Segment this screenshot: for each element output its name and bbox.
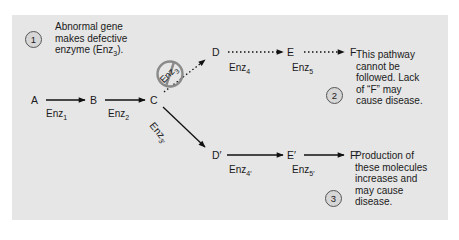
note-1-line: Abnormal gene xyxy=(55,21,127,33)
note-2-line: cause disease. xyxy=(356,95,423,107)
node-d-prime: D′ xyxy=(212,149,222,161)
step-number-2: 2 xyxy=(326,87,343,104)
enzyme-2-label: Enz2 xyxy=(108,108,129,120)
enzyme-5-prime-label: Enz5′ xyxy=(292,164,314,176)
node-d: D xyxy=(212,46,220,58)
note-3-line: these molecules xyxy=(355,162,427,174)
note-2: This pathway cannot be followed. Lack of… xyxy=(356,49,423,107)
note-2-line: This pathway xyxy=(356,49,423,61)
note-3-line: disease. xyxy=(355,196,427,208)
note-3: Production of these molecules increases … xyxy=(355,150,427,208)
node-e-prime: E′ xyxy=(287,149,296,161)
enzyme-4-label: Enz4 xyxy=(229,62,250,74)
note-2-line: of “F” may xyxy=(356,84,423,96)
node-c: C xyxy=(150,94,158,106)
enzyme-4-prime-label: Enz4′ xyxy=(229,164,251,176)
note-1: Abnormal gene makes defective enzyme (En… xyxy=(55,21,127,56)
note-2-line: cannot be xyxy=(356,61,423,73)
step-number-1: 1 xyxy=(25,31,42,48)
step-number-3: 3 xyxy=(325,190,342,207)
arrow-c-to-dprime xyxy=(163,107,205,147)
note-1-line: enzyme (Enz3). xyxy=(55,44,127,56)
enzyme-1-label: Enz1 xyxy=(46,108,67,120)
note-3-line: may cause xyxy=(355,185,427,197)
note-2-line: followed. Lack xyxy=(356,72,423,84)
node-b: B xyxy=(90,94,97,106)
note-1-line: makes defective xyxy=(55,33,127,45)
note-3-line: increases and xyxy=(355,173,427,185)
node-e: E xyxy=(287,46,294,58)
note-3-line: Production of xyxy=(355,150,427,162)
node-a: A xyxy=(31,94,38,106)
enzyme-5-label: Enz5 xyxy=(292,62,313,74)
